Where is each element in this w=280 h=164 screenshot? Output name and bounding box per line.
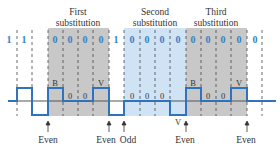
zero-label: 0 <box>221 91 225 101</box>
parity-arrows <box>46 121 249 132</box>
bit: 1 <box>114 34 119 45</box>
bit-row: 1 1 0 0 0 0 1 0 0 0 0 0 0 0 0 0 <box>7 34 258 45</box>
first-substitution-label-line1: First <box>69 7 87 17</box>
first-substitution-label-line2: substitution <box>56 18 101 28</box>
parity-label: Odd <box>120 135 137 145</box>
bit: 1 <box>7 34 12 45</box>
third-substitution-label-line1: Third <box>205 7 226 17</box>
bit: 0 <box>206 34 211 45</box>
parity-label: Even <box>38 135 58 145</box>
hdb3-diagram: First substitution Second substitution T… <box>0 0 280 164</box>
zero-label: 0 <box>145 91 149 101</box>
bit: 0 <box>145 34 150 45</box>
parity-label: Even <box>96 135 116 145</box>
violation-label: V <box>98 78 105 88</box>
violation-label: V <box>175 117 182 127</box>
zero-label: 0 <box>206 91 210 101</box>
bit: 0 <box>237 34 242 45</box>
bit: 0 <box>160 34 165 45</box>
bipolar-violation-label: B <box>52 78 58 88</box>
zero-label: 0 <box>130 91 134 101</box>
zero-label: 0 <box>83 91 87 101</box>
zero-label: 0 <box>68 91 72 101</box>
parity-labels: Even Even Odd Even Even <box>38 135 256 145</box>
bit: 0 <box>99 34 104 45</box>
bit: 0 <box>83 34 88 45</box>
second-substitution-label-line1: Second <box>141 7 169 17</box>
bipolar-violation-label: B <box>190 78 196 88</box>
violation-label: V <box>236 78 243 88</box>
bit: 0 <box>221 34 226 45</box>
bit: 0 <box>53 34 58 45</box>
parity-label: Even <box>236 135 256 145</box>
third-substitution-label-line2: substitution <box>194 18 239 28</box>
parity-label: Even <box>175 135 195 145</box>
bit: 1 <box>22 34 27 45</box>
bit: 0 <box>191 34 196 45</box>
bit: 0 <box>130 34 135 45</box>
second-substitution-label-line2: substitution <box>133 18 178 28</box>
bit: 0 <box>253 34 258 45</box>
bit: 0 <box>68 34 73 45</box>
zero-label: 0 <box>160 91 164 101</box>
bit: 0 <box>176 34 181 45</box>
